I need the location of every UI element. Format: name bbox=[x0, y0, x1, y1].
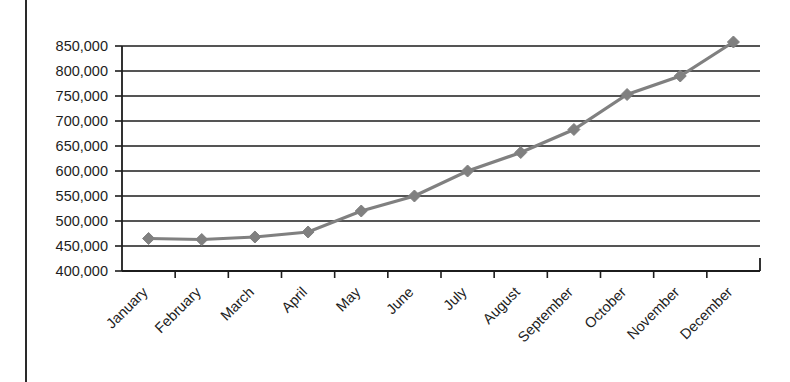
x-tick-label: August bbox=[480, 284, 523, 327]
x-tick-label: May bbox=[333, 283, 364, 314]
x-axis-tickmarks bbox=[175, 271, 707, 278]
x-tick-label: December bbox=[677, 284, 736, 343]
y-axis-tickmarks bbox=[115, 46, 122, 271]
y-axis-tick-labels: 400,000450,000500,000550,000600,000650,0… bbox=[56, 38, 108, 279]
y-tick-label: 500,000 bbox=[56, 213, 108, 229]
x-tick-label: September bbox=[515, 284, 577, 346]
x-tick-label: October bbox=[581, 284, 629, 332]
y-tick-label: 750,000 bbox=[56, 88, 108, 104]
data-point-marker bbox=[462, 165, 474, 177]
chart-canvas: 400,000450,000500,000550,000600,000650,0… bbox=[0, 0, 790, 382]
x-tick-label: February bbox=[152, 283, 205, 336]
x-tick-label: November bbox=[624, 284, 683, 343]
y-tick-label: 550,000 bbox=[56, 188, 108, 204]
x-tick-label: July bbox=[440, 283, 470, 313]
y-tick-label: 650,000 bbox=[56, 138, 108, 154]
data-point-marker bbox=[515, 147, 527, 159]
y-tick-label: 700,000 bbox=[56, 113, 108, 129]
y-tick-label: 850,000 bbox=[56, 38, 108, 54]
x-tick-label: January bbox=[103, 283, 151, 331]
gridlines bbox=[122, 46, 760, 246]
data-point-marker bbox=[196, 234, 208, 246]
data-point-marker bbox=[249, 231, 261, 243]
chart-screenshot: 400,000450,000500,000550,000600,000650,0… bbox=[0, 0, 790, 382]
y-tick-label: 400,000 bbox=[56, 263, 108, 279]
data-point-marker bbox=[302, 226, 314, 238]
x-axis-tick-labels: JanuaryFebruaryMarchAprilMayJuneJulyAugu… bbox=[103, 283, 736, 345]
y-tick-label: 450,000 bbox=[56, 238, 108, 254]
data-point-marker bbox=[355, 205, 367, 217]
x-tick-label: April bbox=[278, 284, 310, 316]
data-point-markers bbox=[143, 36, 740, 246]
y-tick-label: 600,000 bbox=[56, 163, 108, 179]
x-tick-label: March bbox=[217, 284, 257, 324]
line-chart: 400,000450,000500,000550,000600,000650,0… bbox=[0, 0, 790, 382]
data-point-marker bbox=[408, 190, 420, 202]
data-point-marker bbox=[143, 233, 155, 245]
y-tick-label: 800,000 bbox=[56, 63, 108, 79]
x-tick-label: June bbox=[383, 284, 417, 318]
